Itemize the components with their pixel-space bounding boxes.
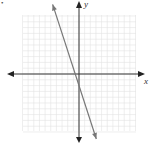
y-axis-down-arrow-icon (76, 137, 82, 143)
y-axis (76, 1, 82, 143)
x-axis-left-arrow-icon (7, 71, 14, 77)
coordinate-plane (0, 0, 151, 143)
y-axis-label: y (84, 0, 88, 9)
corner-marker: • (1, 0, 3, 7)
x-axis-label: x (144, 76, 148, 86)
line-arrow-icon (52, 4, 57, 10)
y-axis-up-arrow-icon (76, 1, 82, 8)
line-arrow-icon (92, 132, 97, 138)
